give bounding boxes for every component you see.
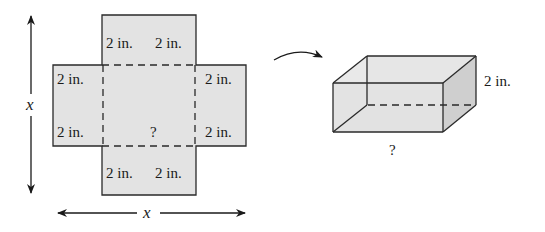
bottom-flap-label-right: 2 in. <box>155 165 182 181</box>
fold-transition-arrow-icon <box>274 52 322 60</box>
net-outline <box>53 15 246 195</box>
left-flap-label-bottom: 2 in. <box>57 124 84 140</box>
right-flap-label-bottom: 2 in. <box>205 124 232 140</box>
center-unknown-label: ? <box>150 124 157 140</box>
bottom-flap-label-left: 2 in. <box>106 165 133 181</box>
top-flap-label-right: 2 in. <box>155 35 182 51</box>
box-base-unknown-label: ? <box>389 142 396 158</box>
top-flap-label-left: 2 in. <box>106 35 133 51</box>
open-box <box>333 56 476 132</box>
box-front-face <box>333 83 443 132</box>
left-flap-label-top: 2 in. <box>57 71 84 87</box>
diagram-canvas: 2 in. 2 in. 2 in. 2 in. 2 in. 2 in. ? 2 … <box>0 0 545 232</box>
box-net: 2 in. 2 in. 2 in. 2 in. 2 in. 2 in. ? 2 … <box>25 15 246 222</box>
right-flap-label-top: 2 in. <box>205 71 232 87</box>
vertical-dimension-label: x <box>25 95 34 114</box>
horizontal-dimension-label: x <box>142 203 151 222</box>
box-height-label: 2 in. <box>484 73 511 89</box>
